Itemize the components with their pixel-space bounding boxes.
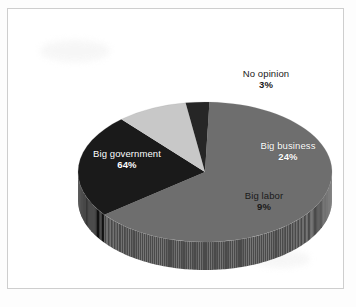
pie-slice-side-big-government — [306, 213, 307, 242]
pie-label-big-labor-value: 9% — [224, 201, 304, 212]
pie-chart: No opinion 3% Big business 24% Big labor… — [0, 0, 356, 307]
pie-slice-side-big-government — [172, 240, 174, 268]
pie-slice-side-big-government — [290, 223, 292, 252]
pie-slice-side-big-government — [115, 221, 117, 250]
pie-slice-side-big-government — [321, 199, 322, 228]
pie-slice-side-big-government — [283, 226, 285, 255]
pie-slice-side-big-government — [155, 236, 157, 264]
pie-slice-side-big-government — [301, 217, 302, 246]
pie-slice-side-big-government — [203, 242, 205, 270]
pie-slice-side-big-government — [255, 236, 257, 264]
pie-slice-side-big-government — [104, 215, 105, 243]
pie-slice-side-big-government — [310, 210, 311, 239]
pie-slice-side-big-business — [96, 208, 97, 237]
pie-slice-side-big-government — [176, 240, 178, 268]
pie-slice-side-big-government — [153, 236, 155, 264]
pie-slice-side-big-business — [100, 212, 101, 241]
pie-label-big-business-value: 24% — [242, 151, 334, 162]
pie-slice-side-big-government — [242, 239, 244, 267]
pie-slice-side-big-government — [205, 242, 207, 270]
pie-slice-side-big-business — [103, 214, 104, 243]
pie-slice-side-big-government — [212, 242, 214, 270]
pie-slice-side-big-government — [234, 240, 236, 268]
pie-slice-side-big-government — [164, 238, 166, 266]
pie-slice-side-big-government — [246, 238, 248, 266]
pie-slice-side-big-business — [90, 202, 91, 231]
pie-label-big-labor-text: Big labor — [245, 190, 283, 201]
pie-slice-side-big-government — [259, 235, 261, 264]
pie-slice-side-big-government — [181, 241, 183, 269]
pie-slice-side-big-government — [293, 221, 295, 250]
pie-slice-side-big-government — [324, 195, 325, 224]
pie-slice-side-big-government — [145, 234, 147, 263]
pie-slice-side-big-government — [143, 233, 145, 262]
pie-slice-side-big-government — [151, 235, 153, 264]
pie-slice-side-big-government — [326, 191, 327, 220]
pie-slice-side-big-government — [108, 217, 109, 246]
pie-slice-side-big-government — [236, 240, 238, 268]
pie-slice-side-big-business — [85, 195, 86, 224]
pie-slice-side-big-business — [91, 203, 92, 232]
pie-slice-side-big-government — [218, 241, 220, 269]
pie-label-no-opinion: No opinion 3% — [216, 68, 316, 90]
pie-slice-side-big-business — [90, 201, 91, 230]
pie-slice-side-big-government — [287, 225, 289, 254]
pie-slice-side-big-government — [267, 233, 269, 262]
pie-slice-side-big-government — [276, 229, 278, 258]
pie-slice-side-big-government — [322, 198, 323, 227]
pie-slice-side-big-government — [288, 224, 290, 253]
pie-slice-side-big-government — [127, 227, 129, 256]
pie-slice-side-big-government — [134, 230, 136, 259]
pie-label-no-opinion-text: No opinion — [243, 68, 289, 79]
pie-slice-side-big-business — [87, 198, 88, 227]
pie-slice-side-big-government — [179, 240, 181, 268]
pie-slice-side-big-business — [93, 206, 94, 235]
pie-slice-side-big-government — [190, 241, 192, 269]
pie-slice-side-big-government — [326, 192, 327, 221]
pie-slice-side-big-government — [207, 242, 209, 270]
pie-slice-side-big-government — [196, 242, 198, 270]
pie-slice-side-big-business — [88, 199, 89, 228]
pie-slice-side-big-government — [313, 208, 314, 237]
pie-slice-side-big-government — [106, 216, 107, 245]
pie-slice-side-big-government — [170, 239, 172, 267]
pie-slice-side-big-government — [136, 231, 138, 260]
pie-slice-side-big-government — [324, 196, 325, 225]
pie-slice-side-big-business — [82, 190, 83, 219]
pie-slice-side-big-government — [123, 226, 125, 255]
pie-slice-side-big-government — [130, 229, 132, 258]
pie-slice-side-big-government — [201, 242, 203, 270]
pie-slice-side-big-government — [244, 238, 246, 266]
pie-slice-side-big-government — [209, 242, 211, 270]
pie-slice-side-big-government — [296, 220, 298, 249]
pie-slice-side-big-government — [263, 234, 265, 263]
pie-slice-side-big-government — [328, 189, 329, 218]
pie-slice-side-big-government — [261, 234, 263, 263]
pie-slice-side-big-government — [129, 228, 131, 257]
pie-slice-side-big-government — [168, 239, 170, 267]
pie-slice-side-big-government — [328, 188, 329, 217]
pie-slice-side-big-government — [125, 226, 127, 255]
pie-slice-side-big-government — [174, 240, 176, 268]
pie-slice-side-big-government — [319, 202, 320, 231]
pie-slice-side-big-business — [95, 207, 96, 236]
pie-slice-side-big-government — [149, 235, 151, 264]
pie-slice-side-big-government — [223, 241, 225, 269]
pie-label-big-business: Big business 24% — [242, 140, 334, 162]
pie-slice-side-big-business — [102, 213, 103, 242]
pie-slice-side-big-government — [315, 206, 316, 235]
pie-slice-side-big-business — [92, 204, 93, 233]
pie-slice-side-big-government — [280, 228, 282, 257]
page-canvas: No opinion 3% Big business 24% Big labor… — [0, 0, 356, 307]
pie-label-big-labor: Big labor 9% — [224, 190, 304, 212]
pie-slice-side-big-government — [240, 239, 242, 267]
pie-slice-side-big-business — [98, 210, 99, 239]
pie-slice-side-big-business — [81, 187, 82, 216]
pie-slice-side-big-government — [140, 232, 142, 261]
pie-slice-side-big-government — [309, 211, 310, 240]
pie-slice-side-big-government — [292, 222, 294, 251]
pie-slice-side-big-government — [225, 241, 227, 269]
pie-slice-side-big-government — [308, 212, 309, 241]
pie-label-big-business-text: Big business — [260, 140, 315, 151]
pie-slice-side-big-government — [317, 204, 318, 233]
